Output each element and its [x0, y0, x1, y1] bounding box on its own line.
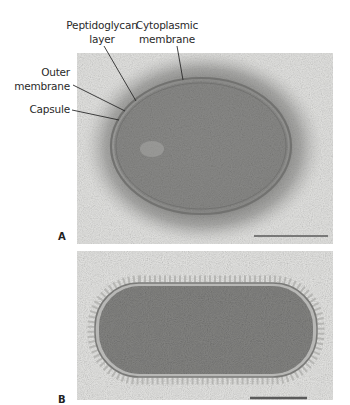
label-peptidoglycan-layer: Peptidoglycan layer — [66, 18, 137, 46]
micrograph-b-image — [77, 251, 333, 400]
label-line: membrane — [136, 32, 198, 46]
label-line: Peptidoglycan — [66, 18, 137, 32]
label-cytoplasmic-membrane: Cytoplasmic membrane — [136, 18, 198, 46]
label-line: Outer — [14, 65, 70, 79]
label-outer-membrane: Outer membrane — [14, 65, 70, 93]
label-line: Capsule — [29, 102, 70, 116]
panel-a-micrograph — [77, 53, 333, 244]
label-capsule: Capsule — [29, 102, 70, 116]
panel-letter-a: A — [58, 231, 66, 242]
panel-b-micrograph — [77, 251, 333, 400]
panel-letter-b: B — [58, 394, 66, 405]
label-line: layer — [66, 32, 137, 46]
label-line: membrane — [14, 79, 70, 93]
micrograph-a-image — [77, 53, 333, 244]
label-line: Cytoplasmic — [136, 18, 198, 32]
